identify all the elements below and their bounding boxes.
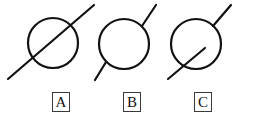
figure-b-line-lower (95, 62, 106, 80)
figure-label-c: C (198, 95, 208, 110)
figure-a (8, 5, 94, 79)
figure-label-box-c: C (194, 92, 212, 112)
figure-label-a: A (56, 95, 67, 110)
figure-b-circle (99, 19, 149, 69)
figure-label-b: B (127, 95, 137, 110)
diagram-canvas: A B C (0, 0, 255, 124)
figure-labels-row: A B C (0, 92, 255, 118)
figure-c-line-upper (213, 5, 231, 26)
figure-label-box-b: B (123, 92, 141, 112)
figure-c (168, 5, 231, 79)
figure-b-line-upper (142, 5, 156, 26)
figure-a-circle (28, 18, 78, 68)
figure-b (95, 5, 156, 80)
figure-label-box-a: A (52, 92, 70, 112)
